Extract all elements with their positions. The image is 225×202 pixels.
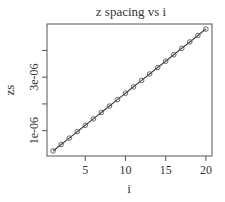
y-tick-label: 3e-06 [27, 64, 41, 91]
chart: z spacing vs i 5101520 1e-063e-06 i zs [0, 0, 225, 202]
x-tick-label: 15 [160, 163, 172, 177]
y-tick-label: 1e-06 [27, 117, 41, 144]
x-tick-label: 10 [119, 163, 131, 177]
series-line [53, 29, 206, 151]
x-tick-label: 20 [200, 163, 212, 177]
data-series [51, 27, 208, 153]
x-tick-label: 5 [82, 163, 88, 177]
y-axis-label: zs [2, 85, 17, 96]
x-axis-label: i [127, 181, 131, 196]
x-axis: 5101520 [82, 156, 212, 177]
y-axis: 1e-063e-06 [27, 50, 47, 144]
chart-title: z spacing vs i [96, 4, 167, 19]
